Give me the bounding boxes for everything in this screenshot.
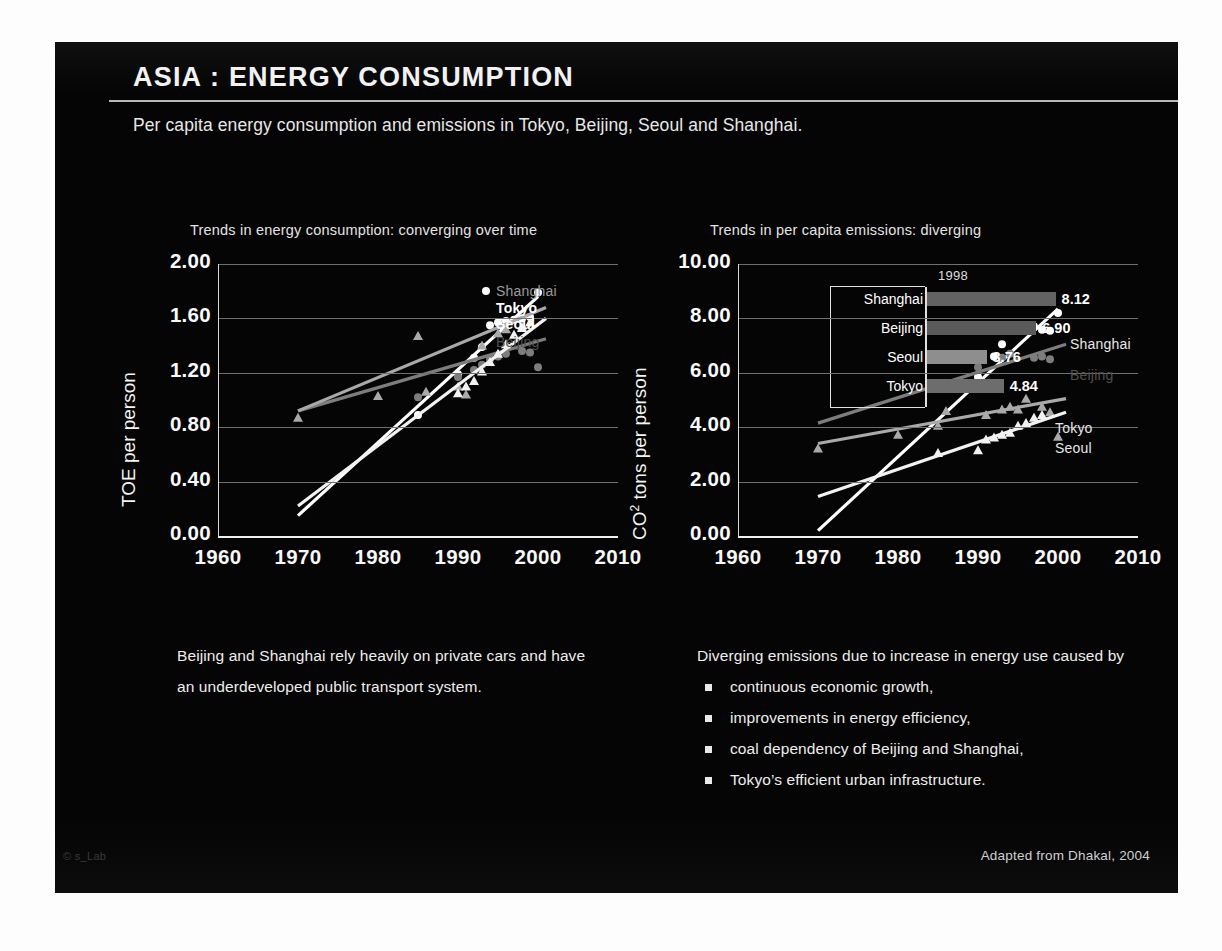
chart-panel-emissions: Trends in per capita emissions: divergin… [620, 222, 1178, 612]
y-axis-label-co2: CO2 tons per person [628, 368, 651, 541]
y-axis-tick: 0.00 [170, 521, 211, 545]
series-label-beijing: Beijing [496, 334, 539, 350]
slide-panel: ASIA : ENERGY CONSUMPTION Per capita ene… [55, 42, 1178, 893]
bullet-item: coal dependency of Beijing and Shanghai, [697, 733, 1167, 764]
inset-bar-row: Seoul3.76 [830, 348, 1060, 366]
gridline [218, 427, 618, 428]
y-axis-tick: 10.00 [678, 249, 731, 273]
gridline [218, 318, 618, 319]
bullet-square-icon [705, 777, 712, 784]
data-point-seoul [1013, 421, 1023, 430]
x-axis-tick: 1990 [435, 545, 482, 569]
right-commentary: Diverging emissions due to increase in e… [697, 640, 1167, 795]
inset-bar-value: 3.76 [993, 348, 1021, 366]
series-layer [218, 264, 618, 536]
footer-credit: © s_Lab [63, 850, 106, 862]
gridline [738, 318, 1138, 319]
x-axis-tick: 1970 [275, 545, 322, 569]
data-point-tokyo [421, 387, 431, 396]
chart-title-emissions: Trends in per capita emissions: divergin… [710, 222, 981, 238]
x-axis-tick: 2000 [1035, 545, 1082, 569]
inset-bar-label: Seoul [823, 348, 923, 366]
data-point-seoul [1037, 410, 1047, 419]
right-bullet-list: continuous economic growth,improvements … [697, 671, 1167, 795]
inset-bar-label: Tokyo [823, 377, 923, 395]
series-label-shanghai: Shanghai [496, 283, 557, 299]
bullet-text: coal dependency of Beijing and Shanghai, [730, 740, 1024, 757]
y-axis-tick: 1.60 [170, 304, 211, 328]
gridline [218, 482, 618, 483]
bullet-item: continuous economic growth, [697, 671, 1167, 702]
inset-year-label: 1998 [938, 268, 968, 283]
data-point-seoul [1021, 418, 1031, 427]
data-point-seoul [1029, 413, 1039, 422]
y-axis-label-co2-rest: tons per person [629, 368, 650, 505]
title-divider [109, 100, 1178, 102]
y-axis-tick: 2.00 [690, 467, 731, 491]
inset-bar-chart-1998: 1998 Shanghai8.12Beijing6.90Seoul3.76Tok… [830, 286, 1060, 408]
data-point-tokyo [373, 391, 383, 400]
bullet-text: continuous economic growth, [730, 678, 933, 695]
gridline [218, 373, 618, 374]
x-axis-tick: 1980 [875, 545, 922, 569]
series-label-shanghai: Shanghai [1070, 336, 1131, 352]
data-point-beijing [454, 373, 462, 381]
y-axis-tick: 8.00 [690, 304, 731, 328]
y-axis-line [218, 264, 219, 536]
y-axis-tick: 2.00 [170, 249, 211, 273]
series-label-seoul: Seoul [1055, 440, 1092, 456]
bullet-square-icon [705, 684, 712, 691]
inset-bar-value: 8.12 [1062, 290, 1090, 308]
bullet-item: improvements in energy efficiency, [697, 702, 1167, 733]
y-axis-tick: 0.00 [690, 521, 731, 545]
data-point-seoul [933, 448, 943, 457]
x-axis-tick: 1970 [795, 545, 842, 569]
x-axis-tick: 2010 [1115, 545, 1162, 569]
data-point-tokyo [293, 413, 303, 422]
plot-area-energy: 0.000.400.801.201.602.001960197019801990… [218, 264, 618, 536]
inset-bar-value: 6.90 [1042, 319, 1070, 337]
y-axis-tick: 6.00 [690, 358, 731, 382]
data-point-tokyo [461, 390, 471, 399]
gridline [218, 264, 618, 265]
y-axis-label-co2-base: CO [629, 512, 650, 541]
bullet-text: Tokyo’s efficient urban infrastructure. [730, 771, 986, 788]
x-axis-tick: 1990 [955, 545, 1002, 569]
series-label-tokyo: Tokyo [496, 300, 537, 316]
series-label-seoul: Seoul [496, 316, 535, 332]
page-subtitle: Per capita energy consumption and emissi… [133, 115, 802, 136]
bullet-square-icon [705, 746, 712, 753]
y-axis-tick: 4.00 [690, 412, 731, 436]
left-commentary: Beijing and Shanghai rely heavily on pri… [177, 640, 607, 702]
inset-bar-label: Beijing [823, 319, 923, 337]
plot-area-emissions: 1998 Shanghai8.12Beijing6.90Seoul3.76Tok… [738, 264, 1138, 536]
x-axis-tick: 1960 [195, 545, 242, 569]
x-axis-tick: 1980 [355, 545, 402, 569]
y-axis-tick: 0.80 [170, 412, 211, 436]
gridline [738, 482, 1138, 483]
page-title: ASIA : ENERGY CONSUMPTION [133, 62, 574, 93]
right-commentary-lead: Diverging emissions due to increase in e… [697, 640, 1167, 671]
data-point-beijing [534, 363, 542, 371]
series-label-beijing: Beijing [1070, 367, 1113, 383]
inset-bar-value: 4.84 [1010, 377, 1038, 395]
series-marker-shanghai [482, 287, 490, 295]
series-label-tokyo: Tokyo [1055, 420, 1093, 436]
inset-bar-label: Shanghai [823, 290, 923, 308]
data-point-tokyo [813, 443, 823, 452]
gridline [738, 264, 1138, 265]
y-axis-label-co2-sup: 2 [628, 505, 642, 512]
inset-bar [927, 350, 987, 364]
inset-bar [927, 321, 1036, 335]
chart-panel-energy-consumption: Trends in energy consumption: converging… [100, 222, 660, 612]
inset-bar [927, 379, 1004, 393]
gridline [738, 536, 1138, 538]
bullet-text: improvements in energy efficiency, [730, 709, 971, 726]
page-root: ASIA : ENERGY CONSUMPTION Per capita ene… [0, 0, 1222, 951]
y-axis-line [738, 264, 739, 536]
data-point-beijing [414, 393, 422, 401]
y-axis-tick: 1.20 [170, 358, 211, 382]
gridline [218, 536, 618, 538]
plot-svg-energy [218, 264, 618, 536]
inset-bar-row: Tokyo4.84 [830, 377, 1060, 395]
